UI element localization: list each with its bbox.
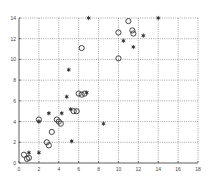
y-tick-label: 6 — [13, 98, 16, 104]
x-tick-label: 14 — [155, 166, 161, 172]
x-tick-label: 12 — [136, 166, 142, 172]
y-tick-label: 10 — [10, 56, 16, 62]
asterisk-marker-icon — [67, 68, 71, 72]
x-tick-label: 18 — [195, 166, 201, 172]
y-tick-label: 14 — [10, 15, 16, 21]
asterisk-marker-icon — [122, 39, 126, 43]
circle-marker-icon — [130, 28, 135, 33]
axes — [19, 18, 198, 163]
asterisk-marker-icon — [65, 95, 69, 99]
asterisk-marker-icon — [102, 121, 106, 125]
asterisk-marker-icon — [27, 150, 31, 154]
y-tick-label: 2 — [13, 139, 16, 145]
y-tick-label: 8 — [13, 77, 16, 83]
scatter-chart: 024681012141618 02468101214 — [0, 0, 213, 177]
asterisk-marker-icon — [141, 33, 145, 37]
x-tick-label: 0 — [18, 166, 21, 172]
y-tick-label: 4 — [13, 119, 16, 125]
asterisk-marker-icon — [156, 16, 160, 20]
asterisk-marker-icon — [47, 111, 51, 115]
circle-marker-icon — [126, 19, 131, 24]
y-tick-label: 12 — [10, 36, 16, 42]
x-tick-label: 16 — [175, 166, 181, 172]
asterisk-marker-icon — [60, 111, 64, 115]
x-tick-label: 8 — [97, 166, 100, 172]
circle-marker-icon — [79, 45, 84, 50]
asterisk-marker-icon — [37, 150, 41, 154]
circle-marker-icon — [79, 92, 84, 97]
asterisk-marker-icon — [70, 139, 74, 143]
y-axis-ticks: 02468101214 — [10, 15, 21, 166]
x-tick-label: 2 — [37, 166, 40, 172]
y-tick-label: 0 — [13, 160, 16, 166]
x-tick-label: 6 — [77, 166, 80, 172]
asterisk-marker-icon — [131, 45, 135, 49]
circle-marker-icon — [131, 31, 136, 36]
data-points — [21, 16, 160, 162]
x-tick-label: 4 — [57, 166, 60, 172]
x-tick-label: 10 — [116, 166, 122, 172]
circle-marker-icon — [49, 129, 54, 134]
grid-lines — [19, 18, 198, 163]
